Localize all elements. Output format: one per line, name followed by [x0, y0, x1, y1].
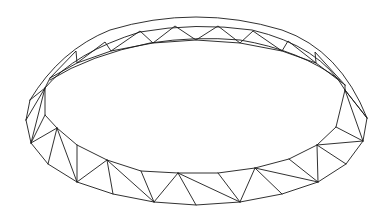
outer-back-arc [30, 17, 367, 118]
truss-vertical [317, 145, 346, 164]
truss-vertical [255, 168, 282, 194]
truss-diagonal [317, 145, 318, 182]
truss-diagonal [31, 88, 45, 143]
truss-diagonal [77, 160, 107, 182]
back-bottom-chord [50, 40, 345, 85]
truss-vertical [141, 171, 154, 202]
truss-diagonal [154, 173, 178, 202]
ring-truss-drawing [0, 0, 384, 214]
truss-diagonal [317, 141, 363, 145]
truss-vertical [178, 173, 196, 205]
truss-vertical [48, 128, 57, 164]
truss-vertical [218, 173, 240, 202]
back-truss-band [26, 26, 367, 120]
truss-diagonal [107, 160, 154, 202]
diagram-canvas: Ring truss (tension/compression ring) li… [0, 0, 384, 214]
front-truss-band [26, 88, 367, 205]
truss-diagonal [240, 168, 255, 202]
front-top-chord [45, 88, 345, 173]
back-inner-lower-arc [50, 39, 340, 80]
truss-diagonal [178, 173, 240, 202]
back-zigzag-web [50, 26, 345, 85]
